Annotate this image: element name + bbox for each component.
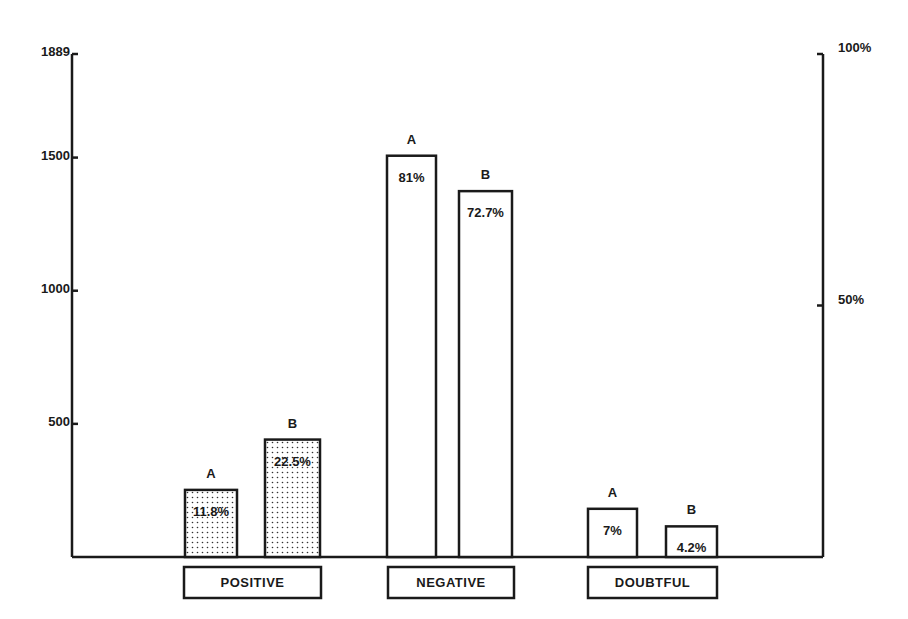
bar-positive-b: B22.5%: [265, 416, 320, 557]
left-tick-label: 1000: [41, 281, 70, 296]
bar-rect: [459, 191, 512, 557]
bar-positive-a: A11.8%: [185, 466, 237, 557]
bar-percent-label: 22.5%: [274, 454, 311, 469]
bar-percent-label: 81%: [398, 170, 424, 185]
category-label: DOUBTFUL: [615, 575, 691, 590]
category-positive: POSITIVE: [184, 567, 321, 598]
category-label: NEGATIVE: [416, 575, 486, 590]
axes: 50010001500188950%100%: [41, 40, 872, 557]
bar-series-label: B: [288, 416, 297, 431]
left-tick-label: 1500: [41, 148, 70, 163]
bar-series-label: B: [481, 167, 490, 182]
bar-chart: 50010001500188950%100% A11.8%B22.5%A81%B…: [0, 0, 908, 619]
bar-rect: [185, 490, 237, 557]
category-doubtful: DOUBTFUL: [588, 567, 717, 598]
bar-percent-label: 11.8%: [193, 504, 230, 519]
category-negative: NEGATIVE: [388, 567, 514, 598]
bar-doubtful-a: A7%: [588, 485, 637, 557]
bar-percent-label: 4.2%: [677, 540, 707, 555]
bar-percent-label: 72.7%: [467, 205, 504, 220]
bars: A11.8%B22.5%A81%B72.7%A7%B4.2%: [185, 132, 717, 557]
left-tick-label: 1889: [41, 44, 70, 59]
left-tick-label: 500: [48, 414, 70, 429]
bar-series-label: B: [687, 502, 696, 517]
bar-percent-label: 7%: [603, 523, 622, 538]
category-label: POSITIVE: [221, 575, 285, 590]
bar-negative-a: A81%: [387, 132, 436, 557]
bar-series-label: A: [407, 132, 417, 147]
category-labels: POSITIVENEGATIVEDOUBTFUL: [184, 567, 717, 598]
right-tick-label: 50%: [838, 292, 864, 307]
bar-negative-b: B72.7%: [459, 167, 512, 557]
bar-series-label: A: [206, 466, 216, 481]
right-tick-label: 100%: [838, 40, 872, 55]
bar-rect: [387, 156, 436, 557]
bar-doubtful-b: B4.2%: [666, 502, 717, 557]
bar-series-label: A: [608, 485, 618, 500]
